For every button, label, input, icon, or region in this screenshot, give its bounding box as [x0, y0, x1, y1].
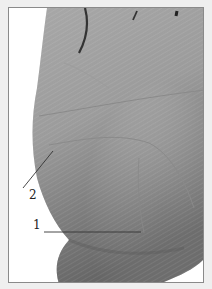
- label-2: 2: [29, 189, 37, 201]
- label-1: 1: [33, 219, 41, 231]
- figure-frame: 2 1: [8, 7, 204, 283]
- palm-photo: [9, 8, 204, 283]
